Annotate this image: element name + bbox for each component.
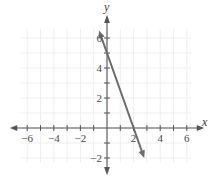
y-tick-label: 2 <box>97 93 103 104</box>
x-tick-label: 6 <box>184 133 190 144</box>
x-tick-label: 2 <box>131 133 137 144</box>
x-axis-label: x <box>202 116 207 128</box>
coordinate-plane-graph: −6−4−2246642−2 x y <box>0 0 215 176</box>
y-tick-label: −2 <box>90 153 102 164</box>
plot-svg <box>0 0 215 176</box>
x-tick-label: −6 <box>21 133 33 144</box>
x-tick-label: −2 <box>75 133 87 144</box>
y-tick-label: 4 <box>97 63 103 74</box>
y-tick-label: 6 <box>97 33 103 44</box>
x-tick-label: 4 <box>157 133 163 144</box>
data-line-series <box>98 31 144 159</box>
x-tick-label: −4 <box>48 133 60 144</box>
axes <box>10 15 204 176</box>
y-axis-label: y <box>104 1 109 13</box>
